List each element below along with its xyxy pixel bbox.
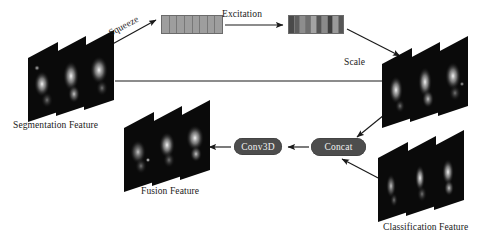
vector-cell (215, 16, 222, 33)
concat-box[interactable]: Concat (311, 138, 366, 156)
vector-cell (193, 16, 201, 33)
classification-feature-stack (378, 130, 490, 222)
arrow-classification-to-concat (342, 159, 382, 180)
conv3d-box[interactable]: Conv3D (234, 138, 282, 155)
scale-label: Scale (344, 57, 365, 67)
excitation-vector (288, 15, 344, 34)
vector-cell (177, 16, 185, 33)
diagram-canvas: Conv3D Concat Segmentation Feature Fusio… (0, 0, 494, 241)
vector-cell (162, 16, 170, 33)
vector-cell (208, 16, 216, 33)
classification-feature-label: Classification Feature (383, 222, 468, 232)
scaled-feature-stack (382, 36, 494, 128)
vector-cell (200, 16, 208, 33)
concat-label: Concat (324, 142, 352, 152)
vector-cell (185, 16, 193, 33)
vector-cell (170, 16, 178, 33)
conv3d-label: Conv3D (241, 142, 274, 152)
squeeze-vector (161, 15, 223, 34)
vector-cell (339, 16, 344, 33)
fusion-feature-label: Fusion Feature (141, 186, 199, 196)
segmentation-feature-label: Segmentation Feature (13, 120, 98, 130)
excitation-label: Excitation (222, 9, 262, 19)
fusion-feature-stack (124, 100, 236, 192)
